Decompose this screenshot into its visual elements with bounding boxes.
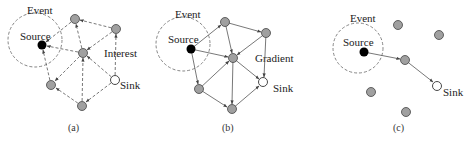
relay-node	[394, 21, 403, 30]
caption-b: (b)	[222, 122, 234, 134]
relay-node	[221, 18, 230, 27]
relay-node	[228, 105, 237, 114]
gradient-label: Gradient	[255, 52, 293, 64]
event-label: Event	[175, 8, 201, 20]
relay-node	[262, 29, 271, 38]
source-node	[38, 41, 47, 50]
relay-node	[402, 108, 411, 117]
source-label: Source	[168, 33, 199, 45]
sink-node	[111, 76, 120, 85]
relay-node	[401, 56, 410, 65]
panel-a: Event Source Interest Sink (a)	[8, 4, 141, 134]
relay-node	[229, 54, 238, 63]
relay-node	[435, 31, 444, 40]
caption-c: (c)	[393, 122, 404, 134]
source-node	[360, 48, 369, 57]
sink-label: Sink	[273, 82, 294, 94]
sink-node	[433, 82, 442, 91]
event-region	[333, 23, 383, 73]
sink-label: Sink	[120, 79, 141, 91]
interest-edges	[43, 19, 116, 106]
source-label: Source	[343, 36, 374, 48]
relay-node	[112, 25, 121, 34]
relay-node	[367, 88, 376, 97]
sink-node	[259, 78, 268, 87]
relay-node	[71, 15, 80, 24]
gradient-edges	[191, 22, 266, 109]
directed-diffusion-diagram: Event Source Interest Sink (a) Ev	[0, 0, 469, 142]
caption-a: (a)	[68, 122, 79, 134]
interest-label: Interest	[104, 47, 137, 59]
relay-node	[47, 81, 56, 90]
event-label: Event	[27, 4, 53, 16]
source-node	[187, 45, 196, 54]
relay-node	[79, 49, 88, 58]
event-label: Event	[350, 12, 376, 24]
panel-c: Event Source Sink (c)	[333, 12, 464, 134]
sink-label: Sink	[443, 86, 464, 98]
relay-node	[195, 85, 204, 94]
relay-node	[78, 102, 87, 111]
panel-b: Event Source Gradient Sink (b)	[156, 8, 294, 134]
source-label: Source	[20, 30, 51, 42]
